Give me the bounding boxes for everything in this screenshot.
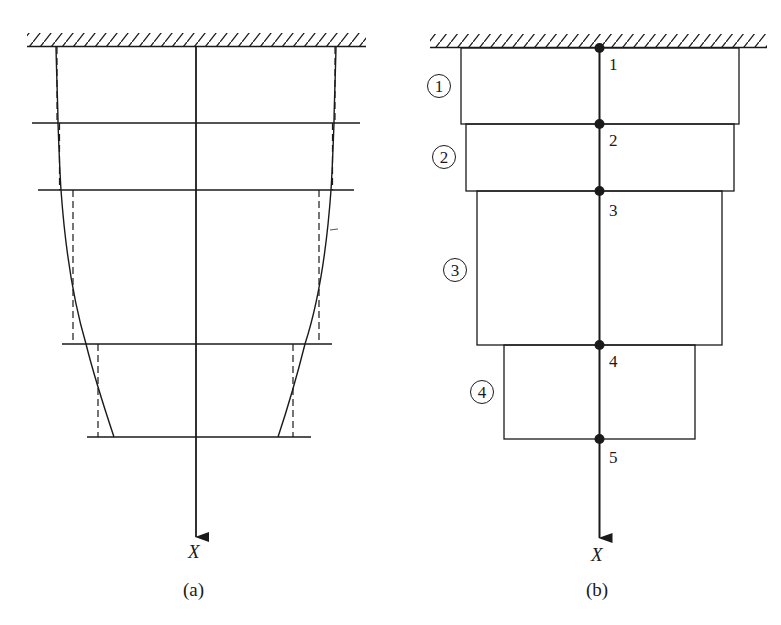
node-2-dot [595,119,605,129]
node-1-dot [595,43,605,53]
node-4-dot [595,340,605,350]
node-label-2: 2 [609,132,618,149]
figure-canvas: X (a) 1 2 3 4 5 1 2 3 4 X (b) [0,0,781,625]
caption-a: (a) [183,580,204,599]
diagram-svg [0,0,781,625]
node-3-dot [595,186,605,196]
axis-label-b: X [591,545,603,564]
node-5-dot [595,434,605,444]
element-label-3: 3 [443,258,467,282]
stray-mark [330,229,338,230]
fixed-support-hatch-a [27,33,366,47]
node-label-1: 1 [609,56,618,73]
axis-label-a: X [188,542,200,561]
node-label-5: 5 [609,449,618,466]
element-label-4: 4 [470,380,494,404]
element-label-1: 1 [427,74,451,98]
caption-b: (b) [586,580,608,599]
panel-b [430,34,767,538]
element-label-2: 2 [432,145,456,169]
node-label-4: 4 [609,353,618,370]
panel-a [27,33,366,537]
node-label-3: 3 [609,202,618,219]
